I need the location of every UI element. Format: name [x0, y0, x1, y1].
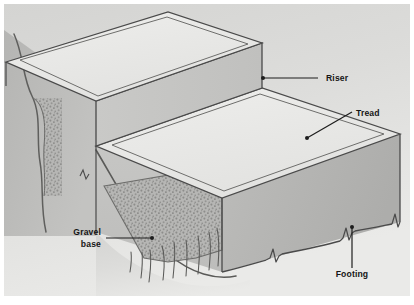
riser-leader-dot — [261, 76, 265, 80]
step-construction-diagram: Riser Tread Gravel base Footing — [0, 0, 414, 305]
footing-leader-dot — [350, 225, 354, 229]
label-footing: Footing — [336, 269, 369, 279]
scene-group — [4, 4, 410, 305]
diagram-root: Riser Tread Gravel base Footing — [0, 0, 414, 305]
label-tread: Tread — [356, 108, 380, 118]
label-riser: Riser — [326, 73, 349, 83]
tread-leader-dot — [305, 136, 309, 140]
gravel-base-leader-dot — [150, 236, 154, 240]
label-gravel-base-line1: Gravel — [73, 227, 101, 237]
label-gravel-base-line2: base — [81, 239, 101, 249]
